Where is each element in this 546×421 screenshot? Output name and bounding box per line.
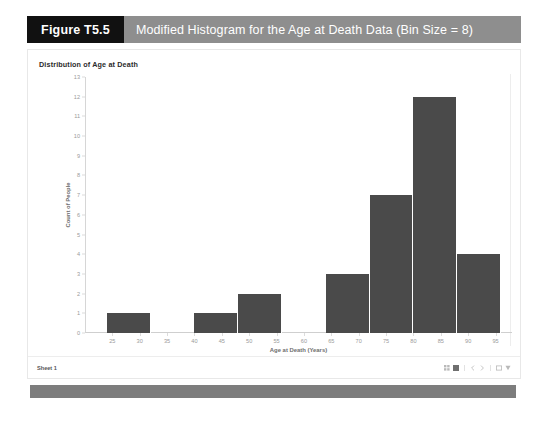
- x-tick-label: 85: [438, 338, 444, 344]
- histogram-bar: [238, 294, 282, 333]
- x-tick-mark: [304, 333, 305, 336]
- visualization-panel: Distribution of Age at Death 01234567891…: [27, 49, 521, 379]
- bar-series: [85, 77, 512, 333]
- share-icon[interactable]: [505, 365, 511, 371]
- chart-title: Distribution of Age at Death: [39, 60, 138, 69]
- figure-number-tag: Figure T5.5: [27, 16, 124, 43]
- figure-page: Figure T5.5 Modified Histogram for the A…: [0, 0, 546, 421]
- y-tick-mark: [82, 293, 85, 294]
- x-tick-mark: [359, 333, 360, 336]
- x-tick-mark: [441, 333, 442, 336]
- x-tick-mark: [277, 333, 278, 336]
- figure-footer-bar: [30, 385, 516, 398]
- y-tick-label: 1: [77, 310, 80, 316]
- y-tick-mark: [82, 77, 85, 78]
- x-tick-label: 90: [465, 338, 471, 344]
- x-tick-label: 65: [328, 338, 334, 344]
- x-tick-mark: [194, 333, 195, 336]
- sheet-status-bar: Sheet 1: [28, 356, 520, 378]
- fullscreen-icon[interactable]: [496, 365, 502, 371]
- x-tick-label: 95: [492, 338, 498, 344]
- y-tick-mark: [82, 136, 85, 137]
- histogram-bar: [457, 254, 501, 333]
- x-tick-mark: [222, 333, 223, 336]
- y-tick-mark: [82, 155, 85, 156]
- y-tick-label: 4: [77, 251, 80, 257]
- histogram-plot: 012345678910111213 253035404550556065707…: [85, 77, 512, 333]
- x-tick-label: 45: [219, 338, 225, 344]
- x-tick-label: 50: [246, 338, 252, 344]
- figure-header: Figure T5.5 Modified Histogram for the A…: [27, 16, 521, 43]
- x-tick-label: 25: [109, 338, 115, 344]
- y-tick-label: 12: [74, 94, 80, 100]
- x-tick-mark: [468, 333, 469, 336]
- x-tick-label: 60: [301, 338, 307, 344]
- y-tick-mark: [82, 116, 85, 117]
- y-tick-mark: [82, 313, 85, 314]
- y-axis-label: Count of People: [65, 182, 71, 227]
- fit-view-icon[interactable]: [453, 365, 459, 371]
- y-tick-label: 8: [77, 172, 80, 178]
- prev-arrow-icon[interactable]: [470, 365, 476, 371]
- histogram-bar: [370, 195, 414, 333]
- y-tick-label: 6: [77, 212, 80, 218]
- y-tick-label: 5: [77, 232, 80, 238]
- x-tick-mark: [112, 333, 113, 336]
- x-tick-label: 30: [137, 338, 143, 344]
- x-tick-mark: [249, 333, 250, 336]
- toolbar-divider: [464, 365, 465, 371]
- grid-view-icon[interactable]: [444, 365, 450, 371]
- x-tick-label: 80: [410, 338, 416, 344]
- x-tick-label: 70: [356, 338, 362, 344]
- histogram-bar: [326, 274, 370, 333]
- y-tick-mark: [82, 254, 85, 255]
- x-tick-mark: [386, 333, 387, 336]
- y-tick-label: 9: [77, 153, 80, 159]
- sheet-tab-label[interactable]: Sheet 1: [37, 365, 57, 371]
- sheet-toolbar: [444, 365, 511, 371]
- y-tick-label: 10: [74, 133, 80, 139]
- x-tick-mark: [496, 333, 497, 336]
- x-tick-mark: [167, 333, 168, 336]
- x-tick-mark: [331, 333, 332, 336]
- figure-caption: Modified Histogram for the Age at Death …: [124, 16, 521, 43]
- y-tick-label: 11: [74, 113, 80, 119]
- y-tick-mark: [82, 96, 85, 97]
- y-tick-label: 13: [74, 74, 80, 80]
- y-tick-mark: [82, 195, 85, 196]
- y-tick-mark: [82, 175, 85, 176]
- y-tick-mark: [82, 333, 85, 334]
- y-tick-mark: [82, 234, 85, 235]
- x-tick-mark: [413, 333, 414, 336]
- x-tick-label: 40: [191, 338, 197, 344]
- x-tick-label: 55: [273, 338, 279, 344]
- next-arrow-icon[interactable]: [479, 365, 485, 371]
- y-tick-label: 7: [77, 192, 80, 198]
- x-tick-label: 35: [164, 338, 170, 344]
- x-axis-label: Age at Death (Years): [270, 347, 327, 353]
- y-tick-mark: [82, 214, 85, 215]
- histogram-bar: [107, 313, 151, 333]
- y-tick-label: 2: [77, 291, 80, 297]
- toolbar-divider-2: [490, 365, 491, 371]
- histogram-bar: [194, 313, 238, 333]
- y-tick-mark: [82, 273, 85, 274]
- x-tick-label: 75: [383, 338, 389, 344]
- y-tick-label: 0: [77, 330, 80, 336]
- y-tick-label: 3: [77, 271, 80, 277]
- histogram-bar: [413, 97, 457, 333]
- x-tick-mark: [140, 333, 141, 336]
